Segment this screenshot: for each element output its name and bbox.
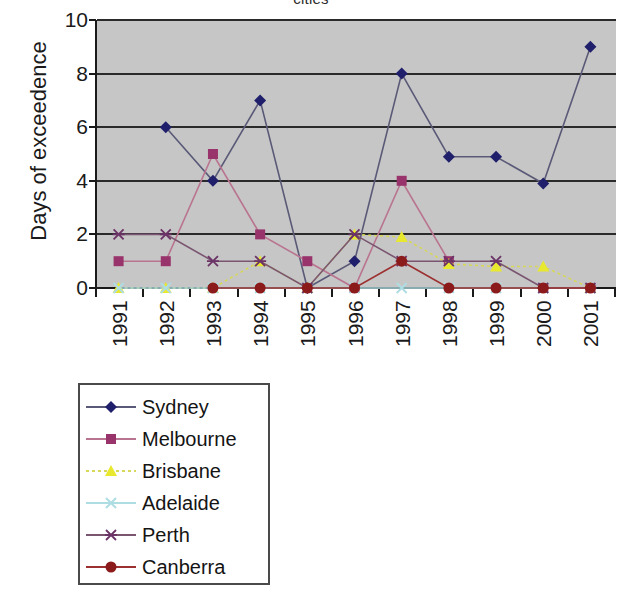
legend-item-adelaide[interactable]: Adelaide — [80, 487, 272, 519]
marker-perth-1993 — [207, 256, 219, 266]
marker-canberra-1993 — [207, 283, 218, 294]
series-line-melbourne — [119, 154, 591, 288]
legend-marker-sydney-icon — [80, 394, 142, 420]
marker-brisbane-2000 — [537, 261, 549, 272]
legend-label-adelaide: Adelaide — [142, 490, 220, 516]
marker-sydney-1996 — [349, 255, 361, 267]
series-melbourne — [114, 149, 596, 293]
marker-melbourne-1994 — [255, 229, 265, 239]
marker-canberra-2001 — [585, 283, 596, 294]
marker-brisbane-1997 — [396, 231, 408, 242]
legend-item-melbourne[interactable]: Melbourne — [80, 423, 272, 455]
legend-glyph-perth-icon — [105, 530, 117, 540]
legend-item-sydney[interactable]: Sydney — [80, 391, 272, 423]
marker-sydney-1999 — [490, 151, 502, 163]
marker-canberra-1996 — [349, 283, 360, 294]
legend-marker-canberra-icon — [80, 554, 142, 580]
marker-melbourne-1993 — [208, 149, 218, 159]
legend-marker-brisbane-icon — [80, 458, 142, 484]
marker-sydney-2000 — [537, 177, 549, 189]
line-chart: Days of exceedence 0246810 1991199219931… — [0, 0, 622, 360]
marker-sydney-1997 — [396, 68, 408, 80]
marker-perth-1991 — [113, 229, 125, 239]
marker-melbourne-1992 — [161, 256, 171, 266]
marker-melbourne-1991 — [114, 256, 124, 266]
legend-label-sydney: Sydney — [142, 394, 209, 420]
legend-glyph-melbourne-icon — [106, 434, 116, 444]
marker-melbourne-1995 — [302, 256, 312, 266]
marker-melbourne-1997 — [397, 176, 407, 186]
marker-canberra-1999 — [491, 283, 502, 294]
marker-sydney-1998 — [443, 151, 455, 163]
legend-glyph-sydney-icon — [105, 401, 117, 413]
legend-glyph-canberra-icon — [106, 562, 117, 573]
legend-marker-melbourne-icon — [80, 426, 142, 452]
marker-sydney-1994 — [254, 94, 266, 106]
marker-sydney-2001 — [584, 41, 596, 53]
marker-canberra-1997 — [396, 256, 407, 267]
legend-marker-adelaide-icon — [80, 490, 142, 516]
legend-item-canberra[interactable]: Canberra — [80, 551, 272, 583]
marker-canberra-1995 — [302, 283, 313, 294]
legend-label-melbourne: Melbourne — [142, 426, 237, 452]
marker-canberra-2000 — [538, 283, 549, 294]
legend-item-perth[interactable]: Perth — [80, 519, 272, 551]
marker-canberra-1998 — [443, 283, 454, 294]
marker-canberra-1994 — [255, 283, 266, 294]
legend-label-brisbane: Brisbane — [142, 458, 221, 484]
legend-label-canberra: Canberra — [142, 554, 225, 580]
series-layer — [0, 0, 622, 360]
series-sydney — [160, 41, 597, 294]
series-line-sydney — [166, 47, 591, 288]
marker-perth-1992 — [160, 229, 172, 239]
chart-legend: SydneyMelbourneBrisbaneAdelaidePerthCanb… — [78, 383, 270, 585]
legend-item-brisbane[interactable]: Brisbane — [80, 455, 272, 487]
legend-label-perth: Perth — [142, 522, 190, 548]
legend-marker-perth-icon — [80, 522, 142, 548]
